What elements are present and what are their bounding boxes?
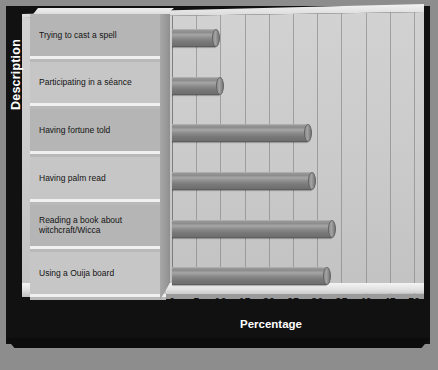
gridline bbox=[414, 12, 415, 294]
gridline bbox=[220, 12, 221, 294]
category-label: Participating in a séance bbox=[30, 62, 166, 107]
category-label: Trying to cast a spell bbox=[30, 14, 166, 59]
gridline bbox=[366, 12, 367, 294]
x-tick-label: 5 bbox=[193, 296, 199, 308]
x-tick-label: 50 bbox=[408, 296, 420, 308]
x-tick-label: 25 bbox=[287, 296, 299, 308]
x-axis-tick-labels: 05101520253035404550 bbox=[0, 296, 438, 312]
gridline bbox=[196, 12, 197, 294]
x-tick-label: 20 bbox=[263, 296, 275, 308]
x-tick-label: 0 bbox=[169, 296, 175, 308]
x-tick-label: 15 bbox=[238, 296, 250, 308]
x-tick-label: 35 bbox=[335, 296, 347, 308]
gridline bbox=[172, 12, 173, 294]
x-tick-label: 40 bbox=[359, 296, 371, 308]
x-tick-label: 30 bbox=[311, 296, 323, 308]
x-axis-title: Percentage bbox=[0, 318, 438, 330]
y-axis-title: Description bbox=[9, 39, 23, 110]
category-label: Reading a book about witchcraft/Wicca bbox=[30, 205, 166, 250]
category-label-panel: Trying to cast a spellParticipating in a… bbox=[30, 14, 166, 300]
gridline bbox=[293, 12, 294, 294]
gridline bbox=[269, 12, 270, 294]
x-tick-label: 45 bbox=[384, 296, 396, 308]
category-label: Having palm read bbox=[30, 157, 166, 202]
gridline bbox=[341, 12, 342, 294]
category-label: Having fortune told bbox=[30, 109, 166, 154]
category-panel-side bbox=[160, 14, 170, 300]
x-tick-label: 10 bbox=[214, 296, 226, 308]
gridline bbox=[317, 12, 318, 294]
bar-chart: Trying to cast a spellParticipating in a… bbox=[0, 0, 438, 370]
gridline bbox=[390, 12, 391, 294]
gridline bbox=[245, 12, 246, 294]
category-label: Using a Ouija board bbox=[30, 252, 166, 297]
chart-frame-base bbox=[6, 338, 430, 348]
